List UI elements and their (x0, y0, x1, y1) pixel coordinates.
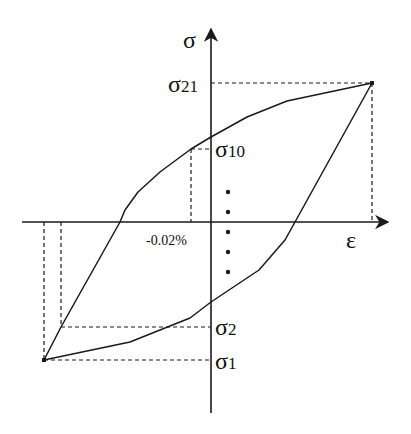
sigma2-label: σ2 (215, 315, 236, 339)
strain-tick-label: -0.02% (146, 234, 187, 248)
sigma21-label: σ21 (168, 72, 198, 96)
sigma1-label: σ1 (215, 349, 236, 373)
ellipsis-dots (226, 190, 230, 274)
y-axis-label: σ (183, 28, 196, 52)
hysteresis-diagram: σ ε σ21 σ10 σ2 σ1 -0.02% (0, 0, 411, 434)
sigma10-label: σ10 (215, 137, 245, 161)
x-axis-label: ε (346, 228, 356, 252)
diagram-canvas (0, 0, 411, 434)
